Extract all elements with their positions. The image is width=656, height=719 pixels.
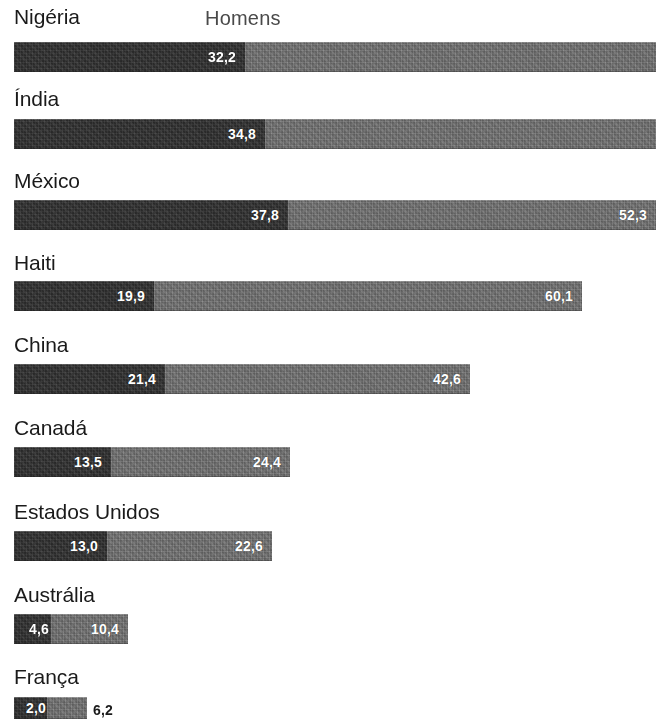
bar-value-total: 52,3 xyxy=(619,207,656,223)
bar-value-homens: 34,8 xyxy=(228,126,265,142)
category-label: China xyxy=(14,334,68,355)
bar-segment-total xyxy=(47,697,87,719)
bar-estados-unidos[interactable]: 13,0 22,6 xyxy=(14,531,272,561)
bar-segment-homens: 37,8 xyxy=(14,200,288,230)
category-label: México xyxy=(14,170,80,191)
bar-segment-total: 42,6 xyxy=(165,364,470,394)
bar-value-homens: 13,5 xyxy=(74,454,111,470)
bar-segment-total: 52,3 xyxy=(288,200,656,230)
bar-segment-total: 10,4 xyxy=(51,614,128,644)
bar-china[interactable]: 21,4 42,6 xyxy=(14,364,470,394)
bar-value-total: 24,4 xyxy=(253,454,290,470)
bar-segment-homens: 21,4 xyxy=(14,364,165,394)
bar-value-total: 6,2 xyxy=(93,702,113,718)
bar-segment-homens: 19,9 xyxy=(14,281,154,311)
legend-label-homens: Homens xyxy=(205,7,281,30)
bar-segment-homens: 13,0 xyxy=(14,531,107,561)
bar-value-total: 42,6 xyxy=(433,371,470,387)
bar-india[interactable]: 34,8 xyxy=(14,119,656,149)
bar-canada[interactable]: 13,5 24,4 xyxy=(14,447,290,477)
category-label: Canadá xyxy=(14,417,87,438)
bar-segment-homens: 32,2 xyxy=(14,42,245,72)
category-label: Estados Unidos xyxy=(14,501,160,522)
stacked-bar-chart: Homens Nigéria 32,2 Índia 34,8 xyxy=(0,0,656,719)
bar-segment-total xyxy=(245,42,656,72)
bar-australia[interactable]: 4,6 10,4 xyxy=(14,614,128,644)
bar-nigeria[interactable]: 32,2 xyxy=(14,42,656,72)
bar-segment-homens: 13,5 xyxy=(14,447,111,477)
bar-value-homens: 32,2 xyxy=(208,49,245,65)
bar-segment-total: 60,1 xyxy=(154,281,582,311)
bar-value-homens: 21,4 xyxy=(128,371,165,387)
bar-segment-homens: 4,6 xyxy=(14,614,51,644)
category-label: Haiti xyxy=(14,252,56,273)
bar-segment-total xyxy=(265,119,656,149)
bar-mexico[interactable]: 37,8 52,3 xyxy=(14,200,656,230)
category-label: Nigéria xyxy=(14,6,80,27)
bar-value-homens: 4,6 xyxy=(29,621,51,637)
bar-haiti[interactable]: 19,9 60,1 xyxy=(14,281,582,311)
category-label: França xyxy=(14,666,79,687)
category-label: Austrália xyxy=(14,584,95,605)
bar-franca[interactable]: 2,0 xyxy=(14,697,87,719)
bar-value-homens: 2,0 xyxy=(26,700,47,716)
bar-segment-total: 24,4 xyxy=(111,447,290,477)
bar-segment-homens: 2,0 xyxy=(14,697,47,719)
bar-value-total: 60,1 xyxy=(545,288,582,304)
bar-segment-total: 22,6 xyxy=(107,531,272,561)
category-label: Índia xyxy=(14,88,59,109)
bar-value-homens: 37,8 xyxy=(251,207,288,223)
bar-value-total: 10,4 xyxy=(91,621,128,637)
bar-value-homens: 19,9 xyxy=(117,288,154,304)
bar-value-homens: 13,0 xyxy=(70,538,107,554)
bar-segment-homens: 34,8 xyxy=(14,119,265,149)
bar-value-total: 22,6 xyxy=(235,538,272,554)
